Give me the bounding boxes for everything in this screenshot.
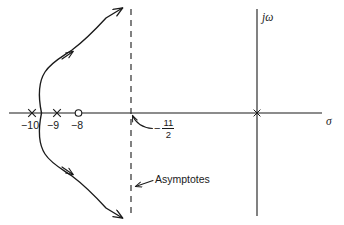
zero-marker-minus-8 xyxy=(75,110,82,117)
locus-branch-upper xyxy=(39,8,122,113)
root-locus-canvas xyxy=(0,0,344,225)
fraction-denominator: 2 xyxy=(165,129,172,139)
real-axis-label: σ xyxy=(326,116,332,128)
tick-label-minus-9: −9 xyxy=(47,120,59,131)
root-locus-figure: −10 −9 −8 − 11 2 Asymptotes jω σ xyxy=(0,0,344,225)
centroid-leader-line xyxy=(133,116,153,129)
asymptote-centroid-fraction: 11 2 xyxy=(162,118,174,139)
asymptotes-annotation-label: Asymptotes xyxy=(155,174,210,185)
fraction-numerator: 11 xyxy=(162,118,174,128)
asymptotes-leader-line xyxy=(136,181,154,187)
asymptote-centroid-label: − 11 2 xyxy=(154,118,174,139)
asymptote-centroid-minus-sign: − xyxy=(154,123,160,134)
imaginary-axis-label: jω xyxy=(262,12,273,24)
tick-label-minus-10: −10 xyxy=(21,120,39,131)
tick-label-minus-8: −8 xyxy=(71,120,83,131)
